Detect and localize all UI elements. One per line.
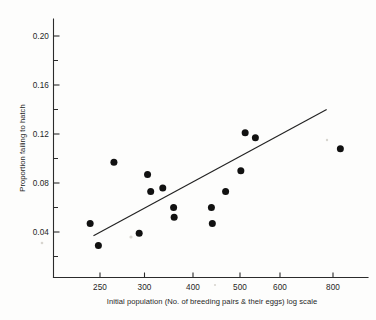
data-point xyxy=(209,220,216,227)
y-tick-label: 0.08 xyxy=(33,179,50,188)
data-point xyxy=(144,171,151,178)
y-tick-label: 0.16 xyxy=(33,81,50,90)
plot-background xyxy=(0,0,376,320)
data-point xyxy=(171,214,178,221)
y-tick-label: 0.12 xyxy=(33,130,50,139)
paper-speck xyxy=(326,139,328,141)
y-tick-label: 0.04 xyxy=(33,228,50,237)
data-point xyxy=(242,129,249,136)
data-point xyxy=(87,220,94,227)
data-point xyxy=(147,188,154,195)
chart-figure: 0.20 0.16 0.12 0.08 0.04 250 300 400 500… xyxy=(0,0,376,320)
data-point xyxy=(208,204,215,211)
y-axis-title: Proportion failing to hatch xyxy=(18,104,27,191)
data-point xyxy=(159,184,166,191)
data-point xyxy=(222,188,229,195)
paper-speck xyxy=(129,235,132,238)
data-point xyxy=(237,167,244,174)
x-tick-label: 600 xyxy=(273,283,287,292)
data-point xyxy=(95,242,102,249)
data-point xyxy=(136,230,143,237)
x-tick-label: 500 xyxy=(233,283,247,292)
x-axis-title: Initial population (No. of breeding pair… xyxy=(107,297,318,306)
x-tick-label: 400 xyxy=(186,283,200,292)
data-point xyxy=(170,204,177,211)
data-point xyxy=(252,134,259,141)
x-tick-label: 300 xyxy=(138,283,152,292)
paper-speck xyxy=(41,242,44,245)
data-point xyxy=(337,145,344,152)
x-tick-label: 800 xyxy=(326,283,340,292)
paper-speck xyxy=(214,284,216,286)
scatter-plot-svg: 0.20 0.16 0.12 0.08 0.04 250 300 400 500… xyxy=(0,0,376,320)
data-point xyxy=(110,159,117,166)
y-tick-label: 0.20 xyxy=(33,32,50,41)
x-tick-label: 250 xyxy=(93,283,107,292)
